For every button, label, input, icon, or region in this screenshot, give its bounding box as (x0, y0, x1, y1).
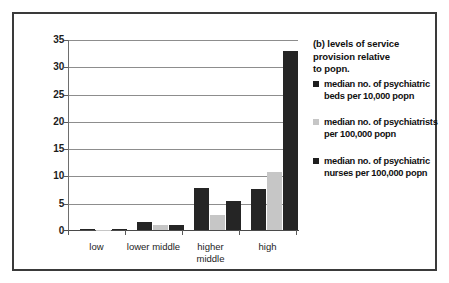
bar-psychiatrists (267, 172, 282, 230)
x-tick-mark (68, 230, 69, 235)
legend-item-beds: median no. of psychiatric beds per 10,00… (313, 78, 445, 103)
y-tick-label: 25 (38, 90, 64, 100)
bar-group-higher-middle (190, 40, 246, 230)
bar-psychiatrists (210, 215, 225, 230)
chart-figure: 35 30 25 20 15 10 5 0 (0, 0, 449, 283)
bar-psychiatrists (153, 225, 168, 230)
bar-group-low (76, 40, 132, 230)
x-category-label-higher-middle: higher middle (182, 241, 239, 264)
legend-swatch-icon (313, 158, 319, 164)
legend-item-nurses: median no. of psychiatric nurses per 100… (313, 155, 445, 180)
bar-beds (251, 189, 266, 230)
y-tick-label: 35 (38, 35, 64, 45)
legend-item-label: median no. of psychiatric beds per 10,00… (324, 79, 430, 101)
bar-nurses (226, 201, 241, 230)
x-tick-mark (239, 230, 240, 235)
y-tick-label: 30 (38, 62, 64, 72)
x-category-label-low: low (68, 241, 125, 253)
bar-beds (80, 229, 95, 230)
y-axis-line (68, 40, 69, 231)
x-tick-mark (125, 230, 126, 235)
legend-title-line-1: (b) levels of service (313, 38, 445, 51)
legend-swatch-icon (313, 81, 319, 87)
legend-title: (b) levels of service provision relative… (313, 38, 445, 76)
legend-item-label: median no. of psychiatrists per 100,000 … (324, 117, 438, 139)
x-tick-mark (296, 230, 297, 235)
legend-title-line-2: provision relative (313, 51, 445, 64)
x-tick-mark (182, 230, 183, 235)
chart-frame-border: 35 30 25 20 15 10 5 0 (12, 12, 437, 271)
y-tick-label: 5 (38, 199, 64, 209)
bar-group-high (247, 40, 303, 230)
plot-area: low lower middle higher middle high (68, 40, 298, 231)
bar-nurses (283, 51, 298, 230)
chart-legend: (b) levels of service provision relative… (313, 38, 445, 193)
legend-item-label: median no. of psychiatric nurses per 100… (324, 156, 430, 178)
x-category-label-high: high (239, 241, 296, 253)
legend-item-psychiatrists: median no. of psychiatrists per 100,000 … (313, 116, 445, 141)
y-tick-label: 20 (38, 117, 64, 127)
bar-beds (194, 188, 209, 230)
bar-group-lower-middle (133, 40, 189, 230)
legend-title-line-3: to popn. (313, 63, 445, 76)
legend-swatch-icon (313, 119, 319, 125)
y-tick-label: 0 (38, 226, 64, 236)
y-axis-labels: 35 30 25 20 15 10 5 0 (34, 40, 64, 231)
x-axis-line (63, 230, 299, 231)
x-category-label-lower-middle: lower middle (125, 241, 182, 253)
y-tick-label: 15 (38, 144, 64, 154)
y-tick-label: 10 (38, 171, 64, 181)
bar-beds (137, 222, 152, 230)
